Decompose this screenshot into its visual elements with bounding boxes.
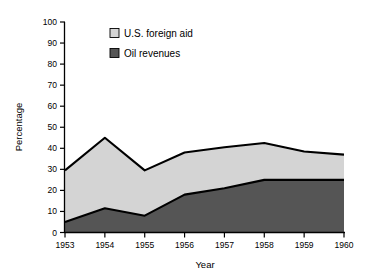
x-tick-label: 1955 — [135, 240, 154, 250]
series-areas — [65, 138, 344, 233]
x-tick-label: 1958 — [255, 240, 274, 250]
y-tick-label: 60 — [48, 101, 58, 111]
x-tick-label: 1957 — [215, 240, 234, 250]
y-tick-label: 70 — [48, 80, 58, 90]
y-axis-title: Percentage — [13, 103, 24, 152]
y-tick-label: 80 — [48, 59, 58, 69]
legend-swatch-us-foreign-aid — [110, 29, 119, 38]
x-tick-label: 1960 — [335, 240, 354, 250]
x-axis-title: Year — [195, 259, 214, 270]
y-tick-label: 90 — [48, 38, 58, 48]
y-tick-label: 10 — [48, 206, 58, 216]
legend-label-us-foreign-aid: U.S. foreign aid — [124, 28, 193, 39]
y-tick-label: 100 — [43, 17, 57, 27]
y-tick-label: 20 — [48, 185, 58, 195]
stacked-area-chart: 0102030405060708090100 19531954195519561… — [0, 0, 367, 275]
y-tick-label: 50 — [48, 122, 58, 132]
x-tick-label: 1956 — [175, 240, 194, 250]
y-tick-label: 0 — [52, 228, 57, 238]
x-tick-label: 1954 — [95, 240, 114, 250]
y-tick-label: 30 — [48, 164, 58, 174]
x-tick-label: 1959 — [295, 240, 314, 250]
x-tick-label: 1953 — [56, 240, 75, 250]
legend-label-oil-revenues: Oil revenues — [124, 48, 180, 59]
y-tick-label: 40 — [48, 143, 58, 153]
legend-swatch-oil-revenues — [110, 49, 119, 58]
chart-svg: 0102030405060708090100 19531954195519561… — [0, 0, 367, 275]
